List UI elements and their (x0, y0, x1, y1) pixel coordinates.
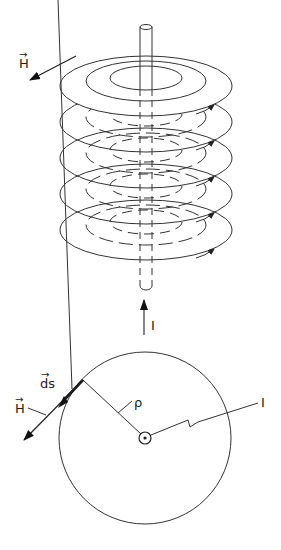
rho-label: ρ (134, 396, 142, 409)
h-leader (28, 408, 46, 415)
vector-arrow-icon: → (41, 370, 49, 380)
h-label-bottom: → H (15, 402, 25, 415)
vector-arrow-icon: → (19, 50, 27, 60)
field-layer-1 (60, 56, 232, 116)
field-line-layers (60, 56, 232, 260)
magnetic-field-diagram: → H I → ds → H ρ I (0, 0, 281, 550)
current-label-bottom: I (261, 396, 265, 409)
radius-line (83, 380, 141, 434)
ds-label: → ds (40, 377, 55, 390)
current-out-of-page-dot-icon (143, 436, 146, 439)
rho-leader (118, 401, 132, 413)
h-label-top: → H (19, 57, 29, 70)
vector-arrow-icon: → (15, 395, 23, 405)
current-leader-zigzag (151, 403, 258, 435)
diagram-canvas (0, 0, 281, 550)
current-label-top: I (151, 319, 155, 332)
